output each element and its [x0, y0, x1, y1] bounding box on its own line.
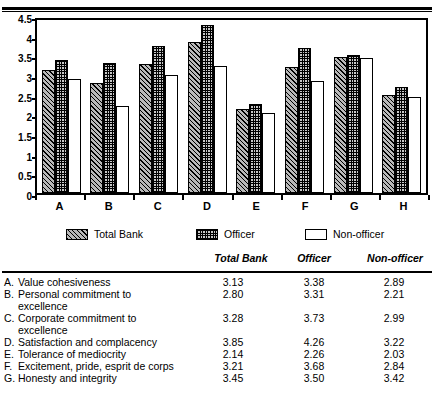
bar-h-total-bank	[382, 95, 395, 193]
table-body: A.Value cohesiveness3.133.382.89B.Person…	[0, 276, 436, 384]
table-row: D.Satisfaction and complacency3.854.263.…	[0, 336, 436, 348]
row-value-non-officer: 2.21	[366, 288, 422, 300]
y-axis-tick-mark	[32, 157, 37, 159]
y-axis-tick-mark	[32, 117, 37, 119]
x-axis-label-c: C	[135, 200, 180, 216]
page-top-rule-thin	[2, 11, 432, 12]
table-row: B.Personal commitment toexcellence2.803.…	[0, 288, 436, 312]
x-axis-label-d: D	[184, 200, 229, 216]
y-axis-tick-label: 0.5	[18, 172, 32, 182]
bar-b-non-officer	[116, 106, 129, 193]
x-axis-label-g: G	[332, 200, 377, 216]
x-axis-labels: ABCDEFGH	[35, 200, 428, 216]
row-value-total-bank: 2.14	[205, 348, 261, 360]
row-letter: B.	[4, 288, 14, 300]
row-letter: E.	[4, 348, 14, 360]
row-label-continued: excellence	[18, 300, 68, 312]
table-row: C.Corporate commitment toexcellence3.283…	[0, 312, 436, 336]
data-table: Total BankOfficerNon-officer	[0, 252, 436, 268]
y-axis-tick-mark	[32, 19, 37, 21]
bar-h-officer	[395, 87, 408, 193]
row-value-officer: 3.73	[289, 312, 339, 324]
legend-label: Officer	[224, 228, 255, 240]
bar-h-non-officer	[408, 97, 421, 193]
row-label: Honesty and integrity	[18, 372, 117, 384]
table-header-row: Total BankOfficerNon-officer	[0, 252, 436, 268]
row-letter: G.	[4, 372, 15, 384]
row-label: Excitement, pride, esprit de corps	[18, 360, 174, 372]
y-axis-tick-label: 1.5	[18, 133, 32, 143]
x-axis-label-b: B	[86, 200, 131, 216]
row-letter: F.	[4, 360, 12, 372]
row-value-non-officer: 2.84	[366, 360, 422, 372]
x-axis-label-f: F	[283, 200, 328, 216]
legend-item-officer: Officer	[196, 228, 255, 240]
bar-g-non-officer	[360, 58, 373, 193]
table-row: A.Value cohesiveness3.133.382.89	[0, 276, 436, 288]
y-axis-tick-mark	[32, 137, 37, 139]
legend-label: Non-officer	[333, 228, 384, 240]
bar-g-total-bank	[334, 57, 347, 193]
bar-d-officer	[201, 25, 214, 193]
legend-item-total-bank: Total Bank	[66, 228, 143, 240]
row-value-total-bank: 3.13	[205, 276, 261, 288]
bar-group-a	[42, 20, 81, 193]
bar-a-non-officer	[68, 79, 81, 193]
row-value-officer: 4.26	[289, 336, 339, 348]
x-axis-label-a: A	[37, 200, 82, 216]
bar-f-non-officer	[311, 81, 324, 193]
y-axis-tick-mark	[32, 39, 37, 41]
bar-c-officer	[152, 46, 165, 193]
x-axis-label-e: E	[234, 200, 279, 216]
legend-item-non-officer: Non-officer	[305, 228, 384, 240]
row-value-total-bank: 3.45	[205, 372, 261, 384]
table-row: G.Honesty and integrity3.453.503.42	[0, 372, 436, 384]
row-letter: C.	[4, 312, 15, 324]
bar-b-officer	[103, 63, 116, 193]
row-value-total-bank: 3.28	[205, 312, 261, 324]
y-axis-tick-mark	[32, 98, 37, 100]
row-value-non-officer: 2.03	[366, 348, 422, 360]
y-axis-tick-mark	[32, 58, 37, 60]
bar-b-total-bank	[90, 83, 103, 193]
legend-swatch-diagonal-hatch	[66, 229, 88, 240]
row-value-officer: 3.50	[289, 372, 339, 384]
row-value-officer: 3.68	[289, 360, 339, 372]
row-value-non-officer: 2.89	[366, 276, 422, 288]
bar-d-non-officer	[214, 66, 227, 193]
bar-groups	[37, 20, 426, 193]
row-value-total-bank: 2.80	[205, 288, 261, 300]
table-row: F.Excitement, pride, esprit de corps3.21…	[0, 360, 436, 372]
row-label: Corporate commitment to	[18, 312, 136, 324]
bar-e-non-officer	[262, 113, 275, 193]
bar-e-officer	[249, 104, 262, 193]
bar-f-total-bank	[285, 67, 298, 193]
table-header-rule	[2, 271, 432, 273]
bar-g-officer	[347, 55, 360, 193]
bar-group-e	[236, 20, 275, 193]
bar-c-total-bank	[139, 64, 152, 193]
bar-f-officer	[298, 48, 311, 193]
bar-group-b	[90, 20, 129, 193]
row-value-non-officer: 3.42	[366, 372, 422, 384]
bar-c-non-officer	[165, 75, 178, 193]
row-value-officer: 3.31	[289, 288, 339, 300]
bar-chart: 00.511.522.533.544.5 ABCDEFGH	[0, 14, 436, 210]
page-top-rule	[2, 7, 432, 10]
table-column-header-non-officer: Non-officer	[360, 252, 430, 264]
bar-group-f	[285, 20, 324, 193]
bar-a-officer	[55, 60, 68, 193]
table-row: E.Tolerance of mediocrity2.142.262.03	[0, 348, 436, 360]
row-value-officer: 2.26	[289, 348, 339, 360]
bar-group-c	[139, 20, 178, 193]
row-value-officer: 3.38	[289, 276, 339, 288]
y-axis-tick-label: 3.5	[18, 54, 32, 64]
row-value-non-officer: 2.99	[366, 312, 422, 324]
legend-swatch-checker-stipple	[196, 229, 218, 240]
row-letter: D.	[4, 336, 15, 348]
legend-swatch-empty-white	[305, 229, 327, 240]
bar-e-total-bank	[236, 109, 249, 193]
bar-group-d	[188, 20, 227, 193]
y-axis-tick-mark	[32, 176, 37, 178]
bar-group-h	[382, 20, 421, 193]
